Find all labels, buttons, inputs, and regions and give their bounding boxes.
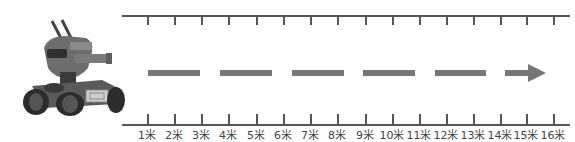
distance-label: 10米 (380, 126, 405, 142)
distance-label: 3米 (192, 126, 210, 142)
path-dash (220, 70, 272, 76)
top-tick (337, 15, 339, 25)
distance-label: 1米 (138, 126, 156, 142)
path-dash (292, 70, 344, 76)
distance-label: 14米 (488, 126, 513, 142)
robot-image (14, 18, 126, 116)
bottom-tick (553, 114, 555, 124)
bottom-tick (310, 114, 312, 124)
top-tick (174, 15, 176, 25)
bottom-tick (283, 114, 285, 124)
path-dash (363, 70, 415, 76)
top-tick (256, 15, 258, 25)
robot-icon (14, 18, 126, 116)
bottom-tick (526, 114, 528, 124)
bottom-tick (500, 114, 502, 124)
distance-label: 11米 (407, 126, 432, 142)
top-scale-line (122, 15, 570, 17)
bottom-tick (174, 114, 176, 124)
bottom-tick (473, 114, 475, 124)
bottom-tick (419, 114, 421, 124)
top-tick (553, 15, 555, 25)
bottom-tick (256, 114, 258, 124)
bottom-tick (201, 114, 203, 124)
arrow-right-icon (505, 63, 547, 83)
bottom-tick (337, 114, 339, 124)
bottom-tick (228, 114, 230, 124)
top-tick (419, 15, 421, 25)
top-tick (283, 15, 285, 25)
bottom-tick (392, 114, 394, 124)
distance-label: 7米 (301, 126, 319, 142)
top-tick (392, 15, 394, 25)
distance-label: 15米 (514, 126, 539, 142)
bottom-tick (147, 114, 149, 124)
top-tick (500, 15, 502, 25)
bottom-tick (446, 114, 448, 124)
distance-label: 16米 (541, 126, 566, 142)
top-tick (147, 15, 149, 25)
top-tick (473, 15, 475, 25)
distance-label: 9米 (356, 126, 374, 142)
distance-label: 2米 (165, 126, 183, 142)
path-dash (435, 70, 486, 76)
top-tick (365, 15, 367, 25)
distance-label: 6米 (274, 126, 292, 142)
bottom-tick (365, 114, 367, 124)
distance-label: 5米 (247, 126, 265, 142)
distance-label: 13米 (461, 126, 486, 142)
top-tick (201, 15, 203, 25)
path-dash (148, 70, 200, 76)
distance-label: 12米 (434, 126, 459, 142)
distance-label: 4米 (219, 126, 237, 142)
top-tick (526, 15, 528, 25)
top-tick (310, 15, 312, 25)
distance-label: 8米 (328, 126, 346, 142)
top-tick (446, 15, 448, 25)
top-tick (228, 15, 230, 25)
